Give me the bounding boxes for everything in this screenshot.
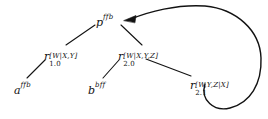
node-r2-0-superscript: [W|X,Y,Z] [123,53,158,60]
node-r2-1-subscript: 2.1 [195,90,206,97]
node-p-base: p [96,16,103,29]
node-leaf-b-base: b [88,84,95,97]
node-p-root: pffb [96,13,113,29]
node-r2-1: r[W,Y,Z|X]2.1 [190,76,195,92]
node-leaf-a-superscript: ffb [21,81,31,89]
arrowhead-icon [124,16,136,23]
edge-r1.0-to-a [27,60,45,78]
node-r1-0-superscript: [W|X,Y] [49,53,77,60]
node-r2-0-subscript: 2.0 [123,61,134,68]
derivation-tree-figure: pffb r[W|X,Y]1.0 r[W|X,Y,Z]2.0 r[W,Y,Z|X… [0,0,268,119]
node-r1-0-subscript: 1.0 [49,61,60,68]
node-r2-0: r[W|X,Y,Z]2.0 [118,47,123,63]
node-leaf-b-superscript: bff [95,81,105,89]
edge-p-to-r1.0 [66,25,95,45]
edge-p-to-r2.0 [121,25,142,45]
node-p-superscript: ffb [103,13,113,21]
edge-r2.0-to-b [103,60,119,78]
edge-r2.0-to-r2.1 [146,59,191,76]
node-r2-1-superscript: [W,Y,Z|X] [195,82,229,89]
node-leaf-b: bbff [88,81,105,97]
node-leaf-a-base: a [14,84,21,97]
node-r1-0: r[W|X,Y]1.0 [44,47,49,63]
node-leaf-a: affb [14,81,31,97]
